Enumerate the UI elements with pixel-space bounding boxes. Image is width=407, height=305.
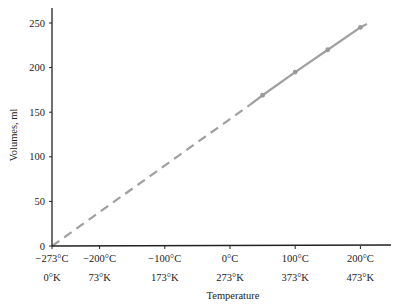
- x-tick-label-celsius: 0°C: [222, 253, 238, 264]
- y-tick-label: 150: [29, 107, 45, 118]
- y-tick-label: 250: [29, 18, 45, 29]
- y-axis-ticks: 050100150200250: [29, 18, 52, 252]
- data-point: [358, 25, 363, 30]
- extrapolation-dashed-line: [52, 105, 250, 246]
- x-tick-label-celsius: −200°C: [83, 253, 116, 264]
- y-axis-title: Volumes, ml: [8, 108, 19, 161]
- y-tick-label: 200: [29, 62, 45, 73]
- x-tick-label-kelvin: 473°K: [347, 272, 375, 283]
- y-tick-label: 50: [35, 196, 46, 207]
- x-tick-label-kelvin: 273°K: [216, 272, 244, 283]
- x-tick-label-celsius: 100°C: [282, 253, 309, 264]
- data-point: [260, 93, 265, 98]
- x-tick-label-celsius: −273°C: [36, 253, 69, 264]
- x-tick-label-kelvin: 73°K: [88, 272, 111, 283]
- x-tick-label-kelvin: 173°K: [151, 272, 179, 283]
- x-tick-label-celsius: 200°C: [347, 253, 374, 264]
- x-tick-label-kelvin: 373°K: [281, 272, 309, 283]
- data-point: [293, 70, 298, 75]
- x-axis-line: [52, 245, 391, 246]
- x-axis-title: Temperature: [207, 290, 260, 301]
- x-axis-ticks: −273°C0°K−200°C73°K−100°C173°K0°C273°K10…: [36, 246, 375, 283]
- data-point: [325, 47, 330, 52]
- charles-law-chart: 050100150200250 −273°C0°K−200°C73°K−100°…: [0, 0, 407, 305]
- x-tick-label-celsius: −100°C: [148, 253, 181, 264]
- measured-solid-line: [250, 24, 367, 105]
- x-tick-label-kelvin: 0°K: [43, 272, 60, 283]
- plot-area: [52, 24, 367, 246]
- y-tick-label: 0: [40, 241, 45, 252]
- y-tick-label: 100: [29, 151, 45, 162]
